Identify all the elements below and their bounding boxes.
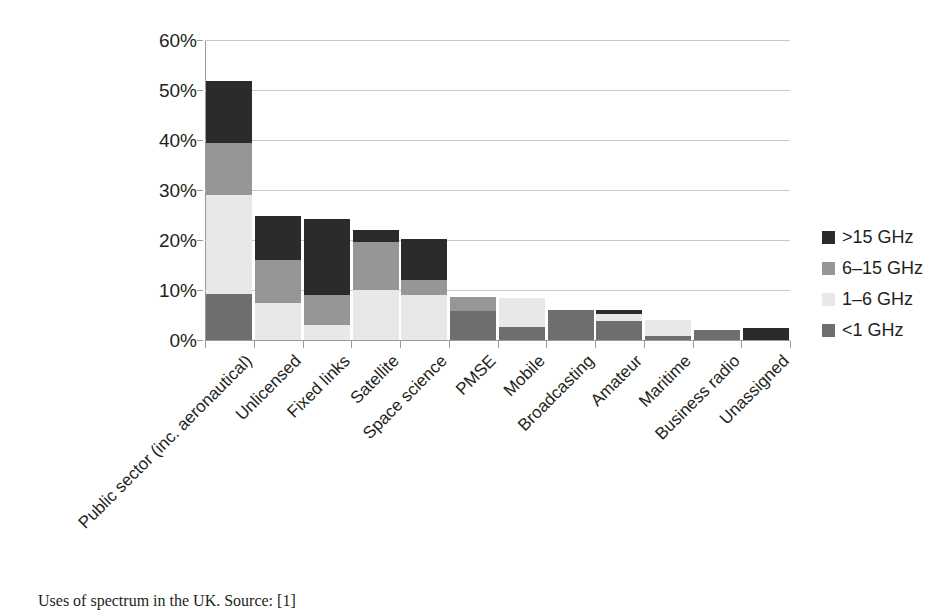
bar-segment [596, 321, 642, 341]
bar-segment [596, 314, 642, 321]
x-axis-label-unassigned: Unassigned [355, 352, 791, 610]
legend-item[interactable]: <1 GHz [822, 315, 952, 346]
stacked-bar[interactable] [694, 330, 740, 340]
y-tick-label-60: 60% [135, 31, 197, 50]
bar-group [450, 40, 496, 340]
bar-group [499, 40, 545, 340]
y-tick-label-10: 10% [135, 281, 197, 300]
bar-group [645, 40, 691, 340]
legend-label: <1 GHz [842, 320, 904, 341]
bar-group [548, 40, 594, 340]
stacked-bar[interactable] [499, 298, 545, 341]
bar-segment [401, 295, 447, 340]
legend-label: 6–15 GHz [842, 258, 923, 279]
bar-segment [596, 310, 642, 314]
bar-group [353, 40, 399, 340]
y-tick-mark [197, 140, 203, 141]
x-tick-mark [644, 341, 645, 348]
y-axis-labels: 0%10%20%30%40%50%60% [133, 40, 197, 340]
x-tick-mark [741, 341, 742, 348]
x-axis-label-broadcasting: Broadcasting [160, 352, 596, 610]
y-tick-mark [197, 190, 203, 191]
stacked-bar[interactable] [548, 310, 594, 340]
y-tick-mark [197, 290, 203, 291]
bar-segment [401, 239, 447, 280]
figure-caption: Uses of spectrum in the UK. Source: [1] [38, 592, 296, 610]
bar-segment [743, 328, 789, 341]
bar-group [694, 40, 740, 340]
bar-segment [353, 290, 399, 340]
y-tick-mark [197, 90, 203, 91]
x-axis-label-fixed-links: Fixed links [0, 352, 353, 610]
x-tick-mark [254, 341, 255, 348]
bar-group [401, 40, 447, 340]
bar-segment [206, 294, 252, 340]
bar-segment [694, 330, 740, 340]
legend-swatch-icon [822, 262, 835, 275]
y-tick-label-40: 40% [135, 131, 197, 150]
stacked-bar[interactable] [743, 328, 789, 341]
bar-group [206, 40, 252, 340]
x-axis-label-unlicensed: Unlicensed [0, 352, 304, 610]
stacked-bar[interactable] [401, 239, 447, 340]
plot-area [205, 40, 790, 340]
x-tick-mark [303, 341, 304, 348]
chart-legend: >15 GHz6–15 GHz1–6 GHz<1 GHz [822, 222, 952, 346]
y-tick-mark [197, 240, 203, 241]
legend-item[interactable]: 6–15 GHz [822, 253, 952, 284]
bar-segment [255, 260, 301, 303]
x-tick-mark [449, 341, 450, 348]
legend-item[interactable]: 1–6 GHz [822, 284, 952, 315]
legend-label: >15 GHz [842, 227, 914, 248]
x-tick-mark [693, 341, 694, 348]
x-tick-mark [790, 341, 791, 348]
stacked-bar[interactable] [255, 216, 301, 340]
x-axis-label-space-science: Space science [14, 352, 450, 610]
y-tick-mark [197, 340, 203, 341]
x-tick-mark [400, 341, 401, 348]
x-axis-label-public-sector-inc-aeronautical: Public sector (inc. aeronautical) [0, 352, 255, 610]
bar-segment [255, 303, 301, 340]
x-axis-label-amateur: Amateur [209, 352, 645, 610]
stacked-bar[interactable] [304, 219, 350, 341]
bar-segment [499, 327, 545, 341]
legend-label: 1–6 GHz [842, 289, 913, 310]
x-axis-label-pmse: PMSE [63, 352, 499, 610]
y-tick-mark [197, 40, 203, 41]
bar-segment [353, 242, 399, 290]
bar-segment [304, 295, 350, 325]
bar-group [304, 40, 350, 340]
bar-segment [548, 310, 594, 340]
bar-segment [645, 320, 691, 336]
stacked-bar[interactable] [450, 297, 496, 340]
stacked-bar[interactable] [596, 310, 642, 340]
bar-segment [450, 311, 496, 341]
spectrum-usage-chart-figure: 0%10%20%30%40%50%60% Public sector (inc.… [0, 0, 952, 610]
bar-segment [304, 219, 350, 296]
x-axis-ticks [205, 341, 790, 349]
bar-segment [255, 216, 301, 260]
stacked-bar[interactable] [353, 230, 399, 341]
bar-segment [450, 297, 496, 311]
stacked-bar[interactable] [206, 81, 252, 340]
x-tick-mark [351, 341, 352, 348]
bar-segment [353, 230, 399, 243]
bar-segment [499, 298, 545, 327]
y-tick-label-20: 20% [135, 231, 197, 250]
x-tick-mark [498, 341, 499, 348]
legend-item[interactable]: >15 GHz [822, 222, 952, 253]
bar-segment [304, 325, 350, 340]
x-tick-mark [205, 341, 206, 348]
bar-segment [206, 81, 252, 143]
x-tick-mark [595, 341, 596, 348]
y-tick-label-50: 50% [135, 81, 197, 100]
x-axis-label-mobile: Mobile [112, 352, 548, 610]
x-axis-label-maritime: Maritime [258, 352, 694, 610]
y-tick-label-0: 0% [135, 331, 197, 350]
bar-group [255, 40, 301, 340]
bar-segment [206, 143, 252, 196]
stacked-bar[interactable] [645, 320, 691, 340]
legend-swatch-icon [822, 293, 835, 306]
x-tick-mark [546, 341, 547, 348]
bar-group [743, 40, 789, 340]
